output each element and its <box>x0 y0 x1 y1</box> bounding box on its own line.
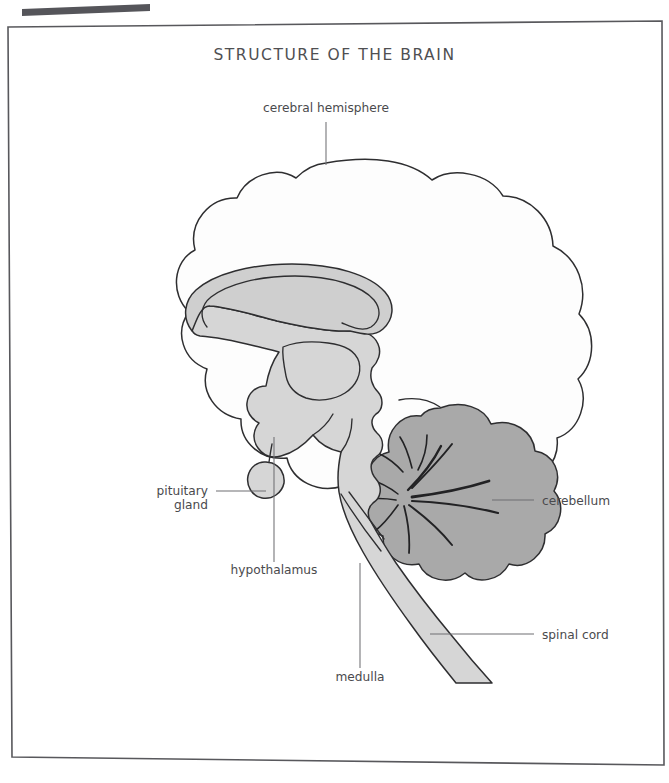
label-pituitary-gland-line1: pituitary <box>157 484 208 498</box>
scan-artifact-bar <box>22 4 150 16</box>
label-medulla: medulla <box>335 670 384 684</box>
label-pituitary-gland-line2: gland <box>174 498 208 512</box>
label-spinal-cord: spinal cord <box>542 628 609 642</box>
label-hypothalamus: hypothalamus <box>231 563 318 577</box>
pituitary-gland-shape <box>248 462 285 498</box>
label-cerebellum: cerebellum <box>542 494 610 508</box>
brain-diagram-svg: STRUCTURE OF THE BRAIN <box>0 0 669 783</box>
page-title: STRUCTURE OF THE BRAIN <box>213 46 455 64</box>
scanned-page: STRUCTURE OF THE BRAIN <box>0 0 669 783</box>
label-cerebral-hemisphere: cerebral hemisphere <box>263 101 389 115</box>
